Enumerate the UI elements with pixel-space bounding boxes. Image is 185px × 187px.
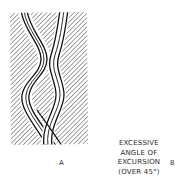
panel-a [10, 10, 88, 146]
annotation-line-1: EXCESSIVE [104, 139, 174, 149]
panel-a-label: A [59, 159, 64, 167]
annotation-line-4: (OVER 45°) [104, 168, 174, 178]
annotation-line-2: ANGLE OF [104, 149, 174, 159]
annotation-line-3: EXCURSION [104, 158, 174, 168]
angle-annotation: EXCESSIVE ANGLE OF EXCURSION (OVER 45°) [104, 139, 174, 177]
